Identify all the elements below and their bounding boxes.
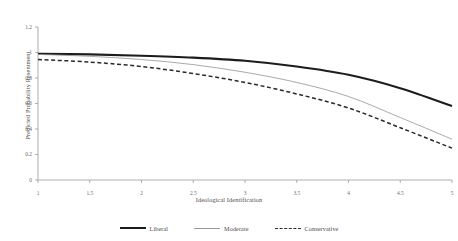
series-line-moderate [38,54,452,139]
axis-tick-marks [35,27,452,183]
chart-legend: Liberal Moderate Conservative [0,219,458,237]
data-series-lines [38,54,452,148]
series-line-conservative [38,60,452,149]
legend-swatch-moderate [194,228,220,229]
axis-lines [38,27,452,180]
chart-figure: Predicted Probability Resentment Ideolog… [0,0,458,241]
plot-area [0,0,458,241]
legend-item-liberal: Liberal [120,225,169,232]
legend-label-moderate: Moderate [224,225,249,232]
legend-swatch-conservative [275,228,301,229]
legend-swatch-liberal [120,227,146,229]
legend-item-moderate: Moderate [194,225,249,232]
legend-label-conservative: Conservative [305,225,339,232]
legend-item-conservative: Conservative [275,225,339,232]
legend-label-liberal: Liberal [150,225,169,232]
series-line-liberal [38,54,452,106]
